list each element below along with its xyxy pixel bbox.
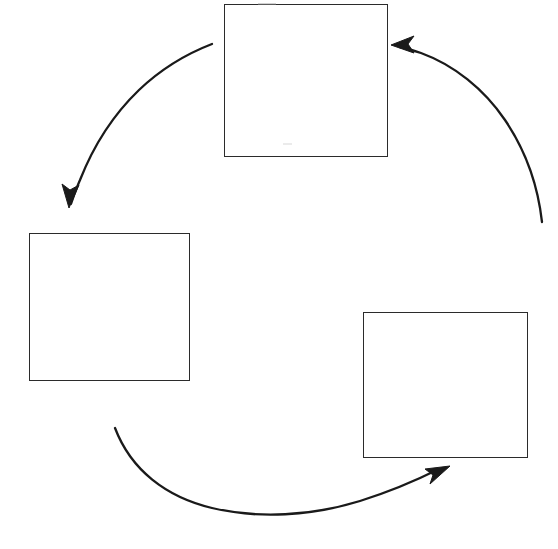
arrow-right-to-top-shaft [400, 47, 542, 222]
cycle-node-right-label [364, 313, 527, 457]
cycle-node-left[interactable] [29, 233, 190, 381]
cycle-node-right[interactable] [363, 312, 528, 458]
arrow-right-to-top [391, 36, 542, 222]
cycle-node-top[interactable] [224, 4, 388, 157]
arrow-right-to-top-head [391, 36, 414, 53]
cycle-node-top-label [225, 5, 387, 156]
arrow-top-to-left-shaft [71, 44, 212, 204]
arrow-top-to-left-head [62, 184, 79, 208]
diagram-canvas [0, 0, 558, 549]
cycle-node-left-label [30, 234, 189, 380]
arrow-top-to-left [62, 44, 212, 208]
